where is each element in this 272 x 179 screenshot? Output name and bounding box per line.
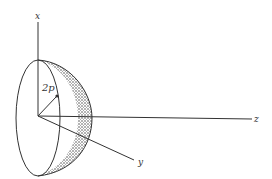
radius-arrow-head — [55, 94, 58, 97]
z-axis-label: z — [253, 114, 259, 124]
radius-line — [38, 97, 56, 116]
x-axis-label: x — [35, 11, 40, 21]
hemisphere-shading — [38, 60, 92, 176]
y-axis-label: y — [137, 157, 144, 167]
z-axis — [38, 116, 252, 119]
radius-label: 2p — [41, 82, 55, 93]
hemisphere-diagram: x z y 2p — [0, 0, 272, 179]
